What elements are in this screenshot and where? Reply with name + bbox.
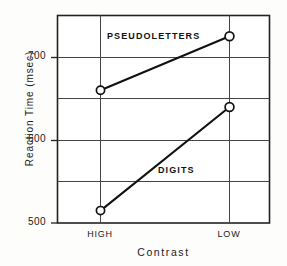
y-tick-label-700: 700 (6, 50, 46, 61)
y-tick-label-500: 500 (6, 216, 46, 227)
y-axis-title: Reaction Time (msec) (24, 24, 35, 194)
series-annotation-digits: DIGITS (158, 165, 195, 175)
x-tick-label-low: LOW (199, 229, 259, 239)
datapoint-pseudoletters-low (225, 32, 234, 41)
datapoint-pseudoletters-high (96, 86, 104, 94)
plot-frame (58, 16, 270, 224)
y-tick-label-600: 600 (6, 133, 46, 144)
x-tick-label-high: HIGH (70, 229, 130, 239)
series-annotation-pseudoletters: PSEUDOLETTERS (107, 31, 200, 41)
chart-figure: Reaction Time (msec) 700 600 500 HIGH LO… (0, 0, 287, 266)
datapoint-digits-high (96, 207, 104, 215)
x-axis-title: Contrast (57, 246, 270, 258)
datapoint-digits-low (225, 103, 234, 112)
